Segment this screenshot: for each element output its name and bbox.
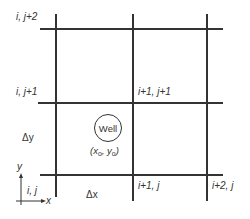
y-axis-label: y: [17, 162, 22, 172]
x-axis-label: x: [46, 196, 51, 206]
axes-icon: [0, 0, 250, 219]
